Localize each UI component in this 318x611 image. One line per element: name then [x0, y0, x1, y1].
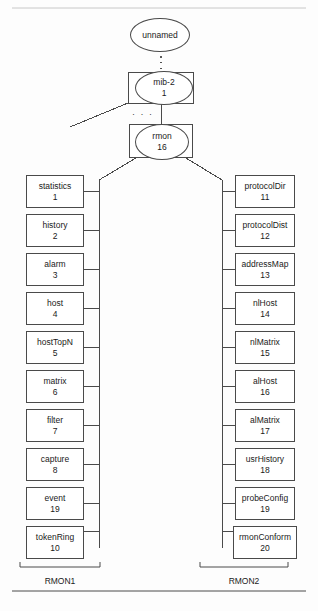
node-history-number: 2	[53, 231, 58, 242]
edge-rmon-right-bus	[186, 158, 222, 180]
node-almatrix-label: alMatrix	[250, 415, 280, 426]
node-nlmatrix-label: nlMatrix	[250, 337, 280, 348]
node-history-label: history	[42, 220, 67, 231]
node-protocoldist[interactable]: protocolDist 12	[235, 214, 295, 247]
node-almatrix-number: 17	[260, 426, 269, 437]
node-mib-2-oval: mib-2 1	[135, 71, 193, 105]
node-nlhost-number: 14	[260, 309, 269, 320]
node-tokenring-label: tokenRing	[36, 532, 74, 543]
node-protocoldir-number: 11	[261, 192, 270, 203]
node-protocoldir[interactable]: protocolDir 11	[235, 175, 295, 208]
node-rmonconform-number: 20	[260, 543, 269, 554]
node-addressmap[interactable]: addressMap 13	[235, 253, 295, 286]
node-rmon[interactable]: rmon 16	[129, 124, 193, 158]
node-probeconfig[interactable]: probeConfig 19	[235, 487, 295, 520]
node-addressmap-label: addressMap	[242, 259, 289, 270]
node-history[interactable]: history 2	[26, 214, 84, 247]
horizontal-ellipsis-icon: · · ·	[132, 110, 154, 119]
node-rmon-label: rmon	[152, 131, 171, 142]
node-alarm-label: alarm	[44, 259, 65, 270]
node-mib-2[interactable]: mib-2 1	[128, 72, 194, 104]
node-capture-number: 8	[53, 465, 58, 476]
node-nlmatrix[interactable]: nlMatrix 15	[235, 331, 295, 364]
node-probeconfig-number: 19	[260, 504, 269, 515]
right-group-bracket	[200, 562, 288, 567]
node-addressmap-number: 13	[260, 270, 269, 281]
node-mib-2-number: 1	[162, 88, 167, 99]
node-hosttopn-label: hostTopN	[37, 337, 73, 348]
node-filter[interactable]: filter 7	[26, 409, 84, 442]
node-rmon-oval: rmon 16	[135, 124, 189, 160]
node-almatrix[interactable]: alMatrix 17	[235, 409, 295, 442]
node-nlmatrix-number: 15	[260, 348, 269, 359]
node-alhost-label: alHost	[253, 376, 277, 387]
node-nlhost-label: nlHost	[253, 298, 277, 309]
node-host[interactable]: host 4	[26, 292, 84, 325]
node-protocoldir-label: protocolDir	[244, 181, 285, 192]
node-unnamed[interactable]: unnamed	[130, 18, 190, 52]
edge-mib2-other-branch	[70, 103, 128, 127]
node-usrhistory-number: 18	[260, 465, 269, 476]
node-mib-2-label: mib-2	[153, 77, 174, 88]
right-group-caption: RMON2	[200, 576, 288, 586]
node-protocoldist-label: protocolDist	[243, 220, 288, 231]
node-protocoldist-number: 12	[260, 231, 269, 242]
node-statistics-label: statistics	[39, 181, 72, 192]
node-capture[interactable]: capture 8	[26, 448, 84, 481]
node-host-label: host	[47, 298, 63, 309]
node-rmonconform[interactable]: rmonConform 20	[233, 526, 297, 559]
node-rmon-number: 16	[157, 142, 166, 153]
node-host-number: 4	[53, 309, 58, 320]
node-capture-label: capture	[41, 454, 69, 465]
node-alarm-number: 3	[53, 270, 58, 281]
node-statistics[interactable]: statistics 1	[26, 175, 84, 208]
node-hosttopn[interactable]: hostTopN 5	[26, 331, 84, 364]
left-group-bracket	[20, 562, 100, 567]
node-usrhistory[interactable]: usrHistory 18	[235, 448, 295, 481]
node-matrix-label: matrix	[43, 376, 66, 387]
node-filter-number: 7	[53, 426, 58, 437]
node-tokenring[interactable]: tokenRing 10	[26, 526, 84, 559]
node-usrhistory-label: usrHistory	[246, 454, 284, 465]
node-tokenring-number: 10	[50, 543, 59, 554]
node-event[interactable]: event 19	[26, 487, 84, 520]
rmon-mib-tree-diagram: unnamed mib-2 1 · · · rmon 16 statistics…	[0, 0, 318, 611]
edge-rmon-left-bus	[99, 158, 136, 180]
left-group-caption: RMON1	[20, 576, 100, 586]
node-statistics-number: 1	[53, 192, 58, 203]
node-alhost-number: 16	[260, 387, 269, 398]
vertical-ellipsis-icon	[160, 56, 162, 69]
node-hosttopn-number: 5	[53, 348, 58, 359]
node-alarm[interactable]: alarm 3	[26, 253, 84, 286]
node-probeconfig-label: probeConfig	[242, 493, 288, 504]
node-alhost[interactable]: alHost 16	[235, 370, 295, 403]
node-rmonconform-label: rmonConform	[239, 532, 291, 543]
node-nlhost[interactable]: nlHost 14	[235, 292, 295, 325]
node-unnamed-label: unnamed	[142, 30, 177, 40]
node-event-number: 19	[50, 504, 59, 515]
node-matrix-number: 6	[53, 387, 58, 398]
node-matrix[interactable]: matrix 6	[26, 370, 84, 403]
node-event-label: event	[45, 493, 66, 504]
node-filter-label: filter	[47, 415, 63, 426]
